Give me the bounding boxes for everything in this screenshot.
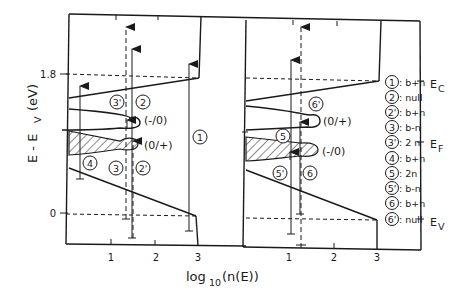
state-label-0-plus-right: (0/+) <box>323 115 352 128</box>
svg-text:: b+n: : b+n <box>399 198 425 209</box>
transition-label-1: 1 <box>193 130 207 144</box>
ev-label: E <box>430 216 437 229</box>
svg-text:6': 6' <box>388 214 397 225</box>
legend-item: 5: 2n <box>386 167 418 180</box>
svg-text:E - E: E - E <box>25 134 40 163</box>
svg-text:5: 5 <box>389 168 395 179</box>
left-panel: 3' 2 1 4 3 2' (-/0) (0/+) 1 2 3 <box>60 14 420 263</box>
svg-text:2': 2' <box>388 107 397 118</box>
svg-text:2': 2' <box>139 163 148 174</box>
svg-text:3: 3 <box>113 163 119 174</box>
svg-text:V: V <box>438 221 445 232</box>
x-tick-right-1: 1 <box>286 252 292 263</box>
svg-text:: b+n: : b+n <box>399 153 425 164</box>
svg-text:3: 3 <box>389 122 395 133</box>
svg-text:5: 5 <box>280 131 286 142</box>
transition-label-5: 5 <box>276 129 290 143</box>
transition-label-2prime: 2' <box>136 161 150 175</box>
legend-item: 3: b-n <box>386 121 421 134</box>
legend: 1: b+n 2: null 2': b+n 3: b-n 3': 2 n 4:… <box>386 76 426 226</box>
legend-item: 2: null <box>386 91 423 104</box>
svg-text:5': 5' <box>388 183 397 194</box>
svg-text:: 2n: : 2n <box>399 168 417 179</box>
legend-item: 2': b+n <box>386 106 426 119</box>
y-tick-1-8: 1.8 <box>40 69 56 80</box>
svg-text:2: 2 <box>140 97 146 108</box>
x-tick-right-2: 2 <box>331 252 337 263</box>
legend-item: 6': null <box>386 213 423 226</box>
svg-text:6: 6 <box>389 198 395 209</box>
svg-text:4: 4 <box>87 158 93 169</box>
transition-label-4: 4 <box>83 156 97 170</box>
svg-text:: b+n: : b+n <box>399 77 425 88</box>
legend-item: 6: b+n <box>386 197 426 210</box>
x-tick-left-3: 3 <box>195 252 201 263</box>
svg-text:6: 6 <box>307 168 313 179</box>
transition-label-3prime: 3' <box>110 95 124 109</box>
svg-text:log: log <box>186 269 206 284</box>
legend-item: 5': b-n <box>386 182 421 195</box>
state-label-minus-0: (-/0) <box>144 114 167 127</box>
x-axis-label: log 10 (n(E)) <box>186 269 259 288</box>
svg-text:: null: : null <box>399 92 423 103</box>
transition-label-6prime: 6' <box>309 97 323 111</box>
svg-text:: b+n: : b+n <box>399 107 425 118</box>
svg-text:3': 3' <box>113 97 122 108</box>
transition-label-3: 3 <box>109 161 123 175</box>
svg-text:(n(E)): (n(E)) <box>222 269 259 284</box>
transition-label-6: 6 <box>303 166 317 180</box>
svg-text:(eV): (eV) <box>25 84 40 111</box>
svg-text:: b-n: : b-n <box>399 183 421 194</box>
y-tick-0: 0 <box>50 208 56 219</box>
svg-text:F: F <box>438 143 443 154</box>
svg-text:6': 6' <box>312 99 321 110</box>
svg-text:2: 2 <box>389 92 395 103</box>
transition-label-5prime: 5' <box>273 166 287 180</box>
svg-text:C: C <box>438 83 445 94</box>
svg-text:10: 10 <box>209 277 221 288</box>
ef-label: E <box>430 138 437 151</box>
state-label-minus-0-right: (-/0) <box>322 145 345 158</box>
state-label-0-plus: (0/+) <box>144 139 173 152</box>
svg-text:1: 1 <box>197 132 203 143</box>
svg-text:3': 3' <box>388 137 397 148</box>
svg-text:4: 4 <box>389 153 395 164</box>
legend-item: 1: b+n <box>386 76 426 89</box>
x-tick-left-2: 2 <box>153 252 159 263</box>
svg-text:1: 1 <box>389 77 395 88</box>
svg-text:: b-n: : b-n <box>399 122 421 133</box>
band-diagram-figure: 3' 2 1 4 3 2' (-/0) (0/+) 1 2 3 <box>0 0 467 303</box>
ec-label: E <box>430 78 437 91</box>
svg-text:5': 5' <box>276 168 285 179</box>
x-tick-left-1: 1 <box>108 252 114 263</box>
legend-item: 3': 2 n <box>386 136 421 149</box>
y-axis-label: E - E V (eV) <box>25 84 43 163</box>
transition-label-2: 2 <box>136 95 150 109</box>
legend-item: 4: b+n <box>386 152 426 165</box>
x-tick-right-3: 3 <box>374 252 380 263</box>
svg-text:V: V <box>32 116 43 123</box>
band-diagram-svg: 3' 2 1 4 3 2' (-/0) (0/+) 1 2 3 <box>0 0 467 303</box>
